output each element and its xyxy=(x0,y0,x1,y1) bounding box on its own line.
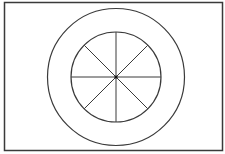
diagram-canvas xyxy=(0,0,225,154)
center-dot xyxy=(114,75,117,78)
spoke-line xyxy=(84,45,116,77)
spoke-line xyxy=(116,45,148,77)
spoke-line xyxy=(84,77,116,109)
spoke-line xyxy=(116,77,148,109)
